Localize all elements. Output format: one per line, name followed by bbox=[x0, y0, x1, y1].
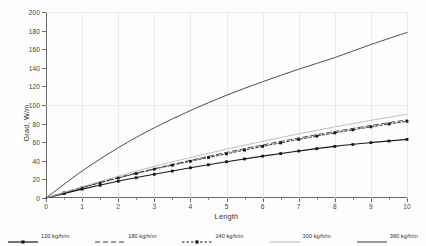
series-lines bbox=[46, 12, 407, 198]
x-tick-mark bbox=[407, 198, 408, 202]
y-tick-label: 60 bbox=[32, 139, 40, 146]
series-marker bbox=[225, 160, 228, 163]
series-marker bbox=[207, 163, 210, 166]
x-tick-mark bbox=[82, 198, 83, 202]
x-tick-label: 10 bbox=[403, 203, 410, 210]
series-marker bbox=[153, 168, 156, 171]
series-marker bbox=[243, 158, 246, 161]
x-tick-minor bbox=[208, 198, 209, 200]
series-marker bbox=[135, 172, 138, 175]
legend-swatch-icon bbox=[270, 232, 300, 240]
x-tick-minor bbox=[172, 198, 173, 200]
x-tick-label: 4 bbox=[189, 203, 193, 210]
legend-label: 240 kg/h/m bbox=[215, 233, 243, 239]
legend-swatch-icon bbox=[95, 232, 125, 240]
legend-swatch-icon bbox=[8, 232, 38, 240]
series-marker bbox=[117, 180, 120, 183]
x-tick-mark bbox=[263, 198, 264, 202]
series-marker bbox=[297, 138, 300, 141]
series-marker bbox=[297, 150, 300, 153]
x-tick-label: 3 bbox=[152, 203, 156, 210]
chart-container: Grad, W/m 020406080100120140160180200 01… bbox=[0, 0, 426, 246]
legend-swatch-icon bbox=[357, 232, 387, 240]
y-tick-label: 80 bbox=[32, 120, 40, 127]
x-tick-mark bbox=[118, 198, 119, 202]
series-marker bbox=[406, 138, 409, 141]
x-tick-label: 0 bbox=[44, 203, 48, 210]
series-marker bbox=[117, 177, 120, 180]
series-line bbox=[46, 32, 407, 198]
x-axis-title: Length bbox=[46, 212, 407, 221]
series-marker bbox=[279, 152, 282, 155]
series-marker bbox=[315, 147, 318, 150]
y-axis-title: Grad, W/m bbox=[22, 104, 31, 141]
series-marker bbox=[370, 141, 373, 144]
y-tick-label: 40 bbox=[32, 157, 40, 164]
legend-swatch-icon bbox=[182, 232, 212, 240]
x-tick-minor bbox=[136, 198, 137, 200]
x-tick-minor bbox=[389, 198, 390, 200]
series-marker bbox=[225, 152, 228, 155]
x-tick-label: 5 bbox=[225, 203, 229, 210]
series-marker bbox=[243, 149, 246, 152]
series-marker bbox=[388, 123, 391, 126]
legend-item-4[interactable]: 360 kg/h/m bbox=[357, 232, 418, 240]
y-tick-label: 100 bbox=[29, 102, 40, 109]
y-tick-label: 180 bbox=[29, 27, 40, 34]
x-tick-minor bbox=[245, 198, 246, 200]
x-tick-minor bbox=[100, 198, 101, 200]
x-tick-label: 8 bbox=[333, 203, 337, 210]
chart-legend: 120 kg/h/m180 kg/h/m240 kg/h/m300 kg/h/m… bbox=[0, 232, 426, 240]
x-tick-minor bbox=[281, 198, 282, 200]
series-360-kg-h-m bbox=[46, 32, 407, 198]
series-marker bbox=[279, 142, 282, 145]
series-marker bbox=[333, 132, 336, 135]
legend-label: 180 kg/h/m bbox=[128, 233, 156, 239]
series-marker bbox=[406, 120, 409, 123]
y-tick-label: 200 bbox=[29, 9, 40, 16]
x-tick-mark bbox=[335, 198, 336, 202]
y-tick-label: 140 bbox=[29, 64, 40, 71]
series-marker bbox=[189, 166, 192, 169]
legend-label: 120 kg/h/m bbox=[41, 233, 69, 239]
y-tick-label: 20 bbox=[32, 176, 40, 183]
x-tick-mark bbox=[299, 198, 300, 202]
legend-item-0[interactable]: 120 kg/h/m bbox=[8, 232, 69, 240]
x-tick-minor bbox=[64, 198, 65, 200]
gridline-vertical bbox=[407, 12, 408, 198]
series-marker bbox=[351, 128, 354, 131]
series-120-kg-h-m bbox=[46, 138, 408, 198]
series-marker bbox=[189, 160, 192, 163]
x-tick-minor bbox=[353, 198, 354, 200]
series-marker bbox=[261, 145, 264, 148]
series-marker bbox=[261, 155, 264, 158]
series-marker bbox=[388, 140, 391, 143]
y-tick-label: 120 bbox=[29, 83, 40, 90]
series-marker bbox=[315, 135, 318, 138]
x-tick-label: 7 bbox=[297, 203, 301, 210]
series-marker bbox=[351, 143, 354, 146]
x-tick-label: 1 bbox=[80, 203, 84, 210]
x-tick-mark bbox=[190, 198, 191, 202]
legend-item-1[interactable]: 180 kg/h/m bbox=[95, 232, 156, 240]
x-tick-mark bbox=[371, 198, 372, 202]
legend-label: 300 kg/h/m bbox=[303, 233, 331, 239]
x-tick-label: 9 bbox=[369, 203, 373, 210]
legend-item-2[interactable]: 240 kg/h/m bbox=[182, 232, 243, 240]
y-tick-label: 160 bbox=[29, 46, 40, 53]
series-marker bbox=[135, 176, 138, 179]
y-tick-label: 0 bbox=[36, 195, 40, 202]
x-tick-label: 6 bbox=[261, 203, 265, 210]
x-tick-mark bbox=[227, 198, 228, 202]
series-marker bbox=[333, 145, 336, 148]
series-marker bbox=[370, 125, 373, 128]
plot-area: 020406080100120140160180200 012345678910… bbox=[46, 12, 407, 198]
legend-label: 360 kg/h/m bbox=[390, 233, 418, 239]
legend-item-3[interactable]: 300 kg/h/m bbox=[270, 232, 331, 240]
series-marker bbox=[207, 156, 210, 159]
series-line bbox=[46, 139, 407, 198]
series-marker bbox=[171, 164, 174, 167]
x-tick-mark bbox=[46, 198, 47, 202]
x-tick-label: 2 bbox=[116, 203, 120, 210]
series-marker bbox=[171, 170, 174, 173]
